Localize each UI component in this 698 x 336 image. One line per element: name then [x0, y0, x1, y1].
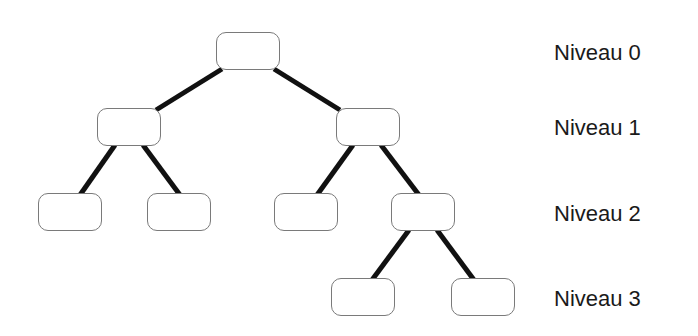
tree-node-root	[216, 32, 280, 70]
level-label-1: Niveau 1	[554, 117, 641, 139]
level-label-3: Niveau 3	[554, 288, 641, 310]
tree-node-level2-1	[38, 193, 102, 231]
tree-node-level3-2	[451, 278, 515, 316]
tree-node-level3-1	[331, 278, 395, 316]
edge-n1-n4	[143, 145, 180, 195]
tree-node-level2-2	[147, 193, 211, 231]
edge-n0-n2	[274, 69, 340, 110]
edge-n2-n5	[317, 145, 353, 195]
tree-node-level1-right	[336, 108, 400, 146]
tree-diagram: Niveau 0 Niveau 1 Niveau 2 Niveau 3	[0, 0, 698, 336]
level-label-0: Niveau 0	[554, 42, 641, 64]
edge-n2-n6	[381, 145, 419, 195]
tree-node-level2-4	[391, 193, 455, 231]
edge-n6-n7	[372, 230, 409, 280]
level-label-2: Niveau 2	[554, 203, 641, 225]
tree-node-level2-3	[274, 193, 338, 231]
edge-n6-n8	[437, 230, 474, 280]
tree-node-level1-left	[97, 108, 161, 146]
edge-n1-n3	[80, 145, 115, 195]
edge-n0-n1	[156, 69, 222, 110]
